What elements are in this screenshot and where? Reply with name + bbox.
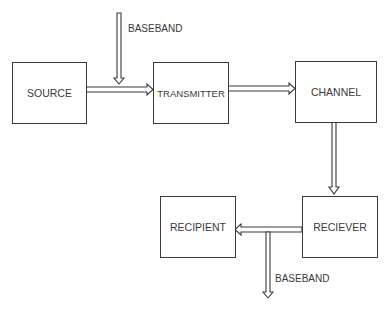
- baseband-out-arrow: [263, 232, 273, 298]
- node-source: SOURCE: [12, 62, 87, 124]
- channel-to-reciever-arrow: [329, 122, 339, 194]
- arrows-layer: [0, 0, 389, 311]
- node-reciever: RECIEVER: [302, 196, 378, 258]
- baseband-in-arrow: [114, 13, 124, 84]
- node-label: RECIEVER: [313, 221, 367, 233]
- node-recipient: RECIPIENT: [160, 196, 236, 258]
- baseband-in-label: BASEBAND: [128, 23, 182, 34]
- node-label: TRANSMITTER: [157, 88, 225, 99]
- node-channel: CHANNEL: [295, 61, 377, 123]
- baseband-out-label: BASEBAND: [275, 273, 329, 284]
- transmitter-to-channel-arrow: [228, 83, 295, 94]
- node-transmitter: TRANSMITTER: [153, 62, 229, 124]
- node-label: RECIPIENT: [170, 221, 226, 233]
- node-label: SOURCE: [27, 87, 72, 99]
- node-label: CHANNEL: [311, 86, 361, 98]
- source-to-transmitter-arrow: [86, 84, 153, 95]
